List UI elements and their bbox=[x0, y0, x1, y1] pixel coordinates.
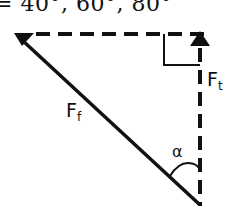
angle-arc bbox=[170, 163, 200, 176]
force-triangle-diagram: Ff Ft α bbox=[0, 0, 228, 209]
ff-label: Ff bbox=[66, 99, 82, 124]
right-angle-marker bbox=[164, 34, 200, 65]
alpha-label: α bbox=[172, 142, 183, 161]
ft-label: Ft bbox=[207, 68, 223, 93]
